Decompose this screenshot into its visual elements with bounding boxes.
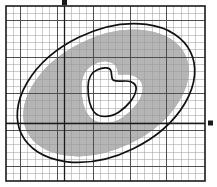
y-axis-arrow-icon: [62, 0, 67, 5]
x-axis-arrow-icon: [208, 121, 213, 126]
geometry-figure: [0, 0, 217, 187]
diagram-canvas: [0, 0, 217, 187]
